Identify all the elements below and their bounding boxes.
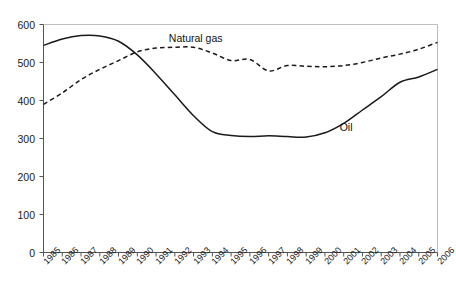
y-axis-tick-label: 0: [5, 248, 35, 258]
y-axis-tick-label: 600: [5, 20, 35, 30]
series-line-natural-gas: [44, 42, 438, 104]
series-line-oil: [44, 35, 438, 137]
y-axis-tick-label: 500: [5, 58, 35, 68]
y-axis-ticks: [40, 25, 44, 253]
y-axis-tick-label: 400: [5, 96, 35, 106]
y-axis-tick-label: 200: [5, 172, 35, 182]
line-chart: 0100200300400500600 19851986198719881989…: [0, 0, 456, 296]
y-axis-tick-label: 300: [5, 134, 35, 144]
series-label-oil: Oil: [340, 121, 353, 133]
y-axis-tick-label: 100: [5, 210, 35, 220]
series-label-natural-gas: Natural gas: [169, 32, 223, 44]
